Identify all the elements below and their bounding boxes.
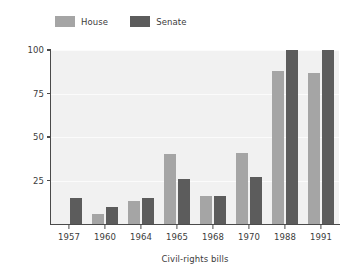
- legend-swatch-senate: [130, 16, 150, 27]
- bar-house-1965: [164, 154, 177, 224]
- bar-house-1960: [92, 214, 105, 224]
- bar-senate-1965: [178, 179, 191, 224]
- bar-senate-1968: [214, 196, 227, 224]
- bar-senate-1957: [70, 198, 83, 224]
- x-tick-mark: [248, 225, 249, 229]
- x-axis-line: [50, 224, 340, 225]
- y-axis-tick: 100: [27, 45, 51, 55]
- y-tick-label: 50: [33, 132, 44, 142]
- x-tick-label: 1968: [202, 232, 224, 242]
- x-tick-label: 1988: [274, 232, 296, 242]
- bar-senate-1970: [250, 177, 263, 224]
- bar-house-1991: [308, 73, 321, 224]
- y-tick-label: 25: [33, 176, 44, 186]
- legend-item-senate: Senate: [130, 16, 186, 27]
- x-tick-mark: [320, 225, 321, 229]
- y-tick-mark: [47, 136, 51, 137]
- x-tick-label: 1991: [310, 232, 332, 242]
- x-tick-mark: [68, 225, 69, 229]
- bar-senate-1991: [322, 50, 335, 224]
- x-tick-label: 1970: [238, 232, 260, 242]
- x-tick-label: 1960: [94, 232, 116, 242]
- x-tick-mark: [176, 225, 177, 229]
- bar-house-1970: [236, 153, 249, 224]
- legend-item-house: House: [55, 16, 108, 27]
- y-tick-label: 75: [33, 89, 44, 99]
- y-tick-mark: [47, 180, 51, 181]
- legend-swatch-house: [55, 16, 75, 27]
- x-tick-mark: [140, 225, 141, 229]
- plot-frame: 255075100 195719601964196519681970198819…: [51, 50, 339, 224]
- bar-senate-1960: [106, 207, 119, 224]
- bar-chart: House Senate Percentage supporting bill …: [0, 0, 346, 274]
- x-tick-mark: [284, 225, 285, 229]
- plot-area: [51, 50, 339, 224]
- bar-senate-1988: [286, 50, 299, 224]
- y-axis-tick: 25: [33, 176, 51, 186]
- y-axis-tick: 50: [33, 132, 51, 142]
- x-tick-mark: [212, 225, 213, 229]
- legend-label-senate: Senate: [156, 17, 186, 27]
- y-tick-label: 100: [27, 45, 44, 55]
- legend-label-house: House: [81, 17, 108, 27]
- bar-senate-1964: [142, 198, 155, 224]
- y-tick-mark: [47, 49, 51, 50]
- x-tick-mark: [104, 225, 105, 229]
- bar-house-1988: [272, 71, 285, 224]
- y-tick-mark: [47, 93, 51, 94]
- x-tick-label: 1965: [166, 232, 188, 242]
- y-axis-tick: 75: [33, 89, 51, 99]
- bar-house-1968: [200, 196, 213, 224]
- x-tick-label: 1957: [58, 232, 80, 242]
- x-axis-title: Civil-rights bills: [50, 254, 340, 264]
- x-tick-label: 1964: [130, 232, 152, 242]
- bar-house-1964: [128, 201, 141, 224]
- chart-legend: House Senate: [55, 16, 187, 27]
